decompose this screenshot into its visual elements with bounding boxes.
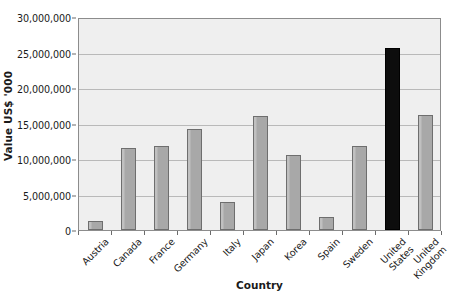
y-tick-label: 15,000,000	[17, 119, 71, 130]
y-tick-label: 20,000,000	[17, 84, 71, 95]
x-tick-label: Austria	[79, 236, 110, 267]
bar	[319, 217, 334, 230]
bar	[154, 146, 169, 230]
x-tick-label-line: Germany	[171, 236, 209, 274]
x-tick-label: Germany	[171, 236, 209, 274]
y-tick-label: 25,000,000	[17, 48, 71, 59]
x-tick-mark	[177, 231, 178, 235]
x-tick-label-line: Sweden	[340, 236, 374, 270]
x-tick-mark	[243, 231, 244, 235]
bar	[88, 221, 103, 230]
bar	[121, 148, 136, 230]
y-tick-label: 10,000,000	[17, 155, 71, 166]
y-tick-mark	[72, 195, 76, 196]
bar	[418, 115, 433, 230]
x-tick-label-line: Italy	[220, 236, 242, 258]
bar	[286, 155, 301, 230]
bar	[220, 202, 235, 230]
x-tick-mark	[408, 231, 409, 235]
x-tick-label-line: Spain	[315, 236, 341, 262]
bar	[385, 48, 400, 230]
x-tick-label-line: Austria	[79, 236, 110, 267]
y-tick-mark	[72, 231, 76, 232]
y-tick-label: 0	[65, 226, 71, 237]
x-tick-mark	[309, 231, 310, 235]
y-tick-mark	[72, 160, 76, 161]
x-tick-mark	[375, 231, 376, 235]
x-tick-mark	[210, 231, 211, 235]
x-tick-mark	[144, 231, 145, 235]
x-tick-mark	[276, 231, 277, 235]
bar	[187, 129, 202, 230]
y-tick-label: 5,000,000	[23, 190, 71, 201]
y-axis-ticks: 05,000,00010,000,00015,000,00020,000,000…	[14, 0, 76, 240]
x-tick-label-line: Canada	[110, 236, 143, 269]
x-tick-label: Italy	[220, 236, 242, 258]
y-tick-mark	[72, 53, 76, 54]
x-tick-label: Japan	[249, 236, 275, 262]
x-tick-label: France	[146, 236, 176, 266]
bar	[253, 116, 268, 230]
plot-area	[78, 18, 441, 231]
y-tick-mark	[72, 89, 76, 90]
x-tick-mark	[441, 231, 442, 235]
y-tick-label: 30,000,000	[17, 13, 71, 24]
x-axis-title: Country	[78, 279, 441, 291]
y-tick-mark	[72, 124, 76, 125]
bar-chart: Value US$ '000 05,000,00010,000,00015,00…	[0, 0, 449, 297]
y-axis-title-text: Value US$ '000	[2, 71, 14, 161]
y-tick-mark	[72, 18, 76, 19]
x-tick-label: Spain	[315, 236, 341, 262]
x-tick-label: Canada	[110, 236, 143, 269]
x-tick-mark	[78, 231, 79, 235]
x-tick-label-line: Korea	[282, 236, 309, 263]
bars-layer	[79, 19, 440, 230]
x-tick-label-line: Japan	[249, 236, 275, 262]
x-tick-label-line: France	[146, 236, 176, 266]
x-tick-label: Korea	[282, 236, 309, 263]
x-tick-mark	[111, 231, 112, 235]
bar	[352, 146, 367, 230]
x-tick-label: Sweden	[340, 236, 374, 270]
x-tick-mark	[342, 231, 343, 235]
x-tick-label: UnitedKingdom	[403, 236, 448, 281]
